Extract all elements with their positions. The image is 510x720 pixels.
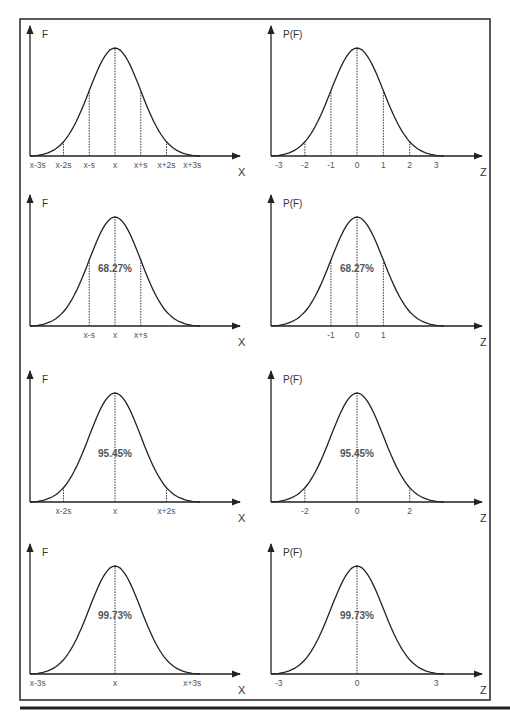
area-percent-label: 68.27% [98, 263, 132, 274]
y-axis-label: P(F) [283, 29, 302, 40]
normal-distribution-figure: x-3sx-2sx-sxx+sx+2sx+3sFX-3-2-10123P(F)Z… [0, 0, 510, 720]
y-axis-label: F [42, 547, 48, 558]
x-tick-label: 0 [355, 506, 360, 516]
y-axis-label: P(F) [283, 374, 302, 385]
x-axis-label: Z [480, 512, 487, 524]
x-tick-label: 2 [407, 506, 412, 516]
x-tick-label: 0 [355, 160, 360, 170]
x-tick-label: x+3s [183, 678, 201, 688]
y-axis-label: F [42, 374, 48, 385]
x-tick-label: 2 [407, 160, 412, 170]
x-axis-label: Z [480, 336, 487, 348]
figure-frame [20, 19, 490, 700]
chart-panel-4: -101P(F)Z68.27% [271, 195, 487, 348]
area-percent-label: 99.73% [340, 610, 374, 621]
x-tick-label: x [113, 160, 118, 170]
x-tick-label: -1 [327, 160, 335, 170]
x-axis-label: Z [480, 684, 487, 696]
area-percent-label: 95.45% [98, 448, 132, 459]
x-tick-label: x [113, 678, 118, 688]
area-percent-label: 99.73% [98, 610, 132, 621]
x-tick-label: x [113, 330, 118, 340]
x-tick-label: -2 [301, 160, 309, 170]
x-tick-label: 1 [381, 330, 386, 340]
chart-panel-1: x-3sx-2sx-sxx+sx+2sx+3sFX [30, 26, 246, 178]
x-tick-label: x+3s [183, 160, 201, 170]
x-axis-label: Z [480, 166, 487, 178]
x-tick-label: x [113, 506, 118, 516]
chart-panel-2: -3-2-10123P(F)Z [271, 26, 487, 178]
x-tick-label: 0 [355, 678, 360, 688]
chart-panel-5: x-2sxx+2sFX95.45% [30, 371, 246, 524]
x-axis-label: X [238, 336, 246, 348]
chart-panel-6: -202P(F)Z95.45% [271, 371, 487, 524]
x-axis-label: X [238, 512, 246, 524]
y-axis-label: P(F) [283, 547, 302, 558]
x-tick-label: -3 [275, 678, 283, 688]
x-tick-label: 3 [434, 160, 439, 170]
x-tick-label: -3 [275, 160, 283, 170]
panels-container: x-3sx-2sx-sxx+sx+2sx+3sFX-3-2-10123P(F)Z… [30, 26, 487, 696]
x-tick-label: x-2s [55, 506, 71, 516]
area-percent-label: 68.27% [340, 263, 374, 274]
x-tick-label: x+2s [157, 506, 175, 516]
x-tick-label: -1 [327, 330, 335, 340]
x-axis-label: X [238, 166, 246, 178]
x-tick-label: x+s [134, 160, 147, 170]
x-tick-label: x-3s [30, 160, 46, 170]
x-tick-label: x+s [134, 330, 147, 340]
x-tick-label: x-3s [30, 678, 46, 688]
y-axis-label: F [42, 29, 48, 40]
chart-panel-3: x-sxx+sFX68.27% [30, 195, 246, 348]
x-tick-label: 0 [355, 330, 360, 340]
x-tick-label: 1 [381, 160, 386, 170]
chart-panel-8: -303P(F)Z99.73% [271, 544, 487, 696]
x-tick-label: x+2s [157, 160, 175, 170]
x-axis-label: X [238, 684, 246, 696]
x-tick-label: -2 [301, 506, 309, 516]
x-tick-label: 3 [434, 678, 439, 688]
x-tick-label: x-2s [55, 160, 71, 170]
area-percent-label: 95.45% [340, 448, 374, 459]
x-tick-label: x-s [84, 330, 95, 340]
chart-panel-7: x-3sxx+3sFX99.73% [30, 544, 246, 696]
y-axis-label: F [42, 198, 48, 209]
y-axis-label: P(F) [283, 198, 302, 209]
x-tick-label: x-s [84, 160, 95, 170]
